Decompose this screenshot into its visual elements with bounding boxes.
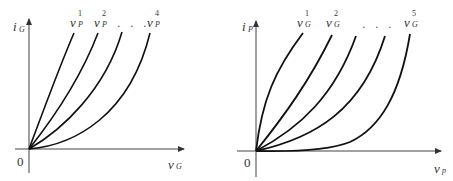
right-origin-label: 0 bbox=[244, 155, 251, 171]
left-x-axis-label: vG bbox=[168, 158, 174, 171]
right-ellipsis: . . . bbox=[362, 18, 394, 31]
curve-vp4 bbox=[29, 33, 150, 149]
right-y-axis-label: iP bbox=[242, 20, 246, 33]
curve-vg5 bbox=[256, 34, 410, 151]
label-vp4: v4P bbox=[147, 16, 153, 29]
label-vp1: v1P bbox=[70, 16, 76, 29]
label-vg1: v1G bbox=[297, 16, 303, 29]
right-x-axis-label: vp bbox=[434, 162, 440, 175]
label-vg2: v2G bbox=[326, 16, 332, 29]
label-vp2: v2P bbox=[94, 16, 100, 29]
curve-vg2 bbox=[256, 35, 332, 151]
curve-vg1 bbox=[256, 33, 303, 151]
right-curves bbox=[256, 33, 410, 151]
curve-vp2 bbox=[29, 33, 98, 149]
left-origin-label: 0 bbox=[17, 154, 24, 170]
curve-vg4 bbox=[256, 36, 385, 151]
label-vg5: v5G bbox=[404, 16, 410, 29]
left-curves bbox=[29, 32, 150, 149]
left-y-axis-label: iG bbox=[13, 20, 17, 33]
curve-vp1 bbox=[29, 33, 74, 149]
left-axes bbox=[15, 19, 184, 173]
left-ellipsis: . . . bbox=[117, 17, 149, 30]
